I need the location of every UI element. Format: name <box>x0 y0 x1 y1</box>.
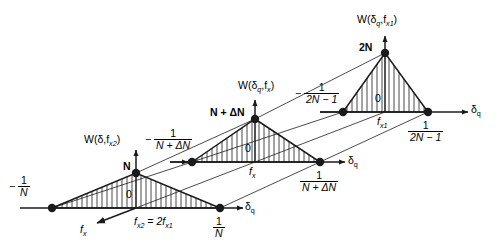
plot-right-zero-label: 0 <box>375 93 381 104</box>
plot-right-axis-label: δq <box>471 104 481 118</box>
plot-middle-intercept-negative: 1 N + ΔN <box>154 128 192 150</box>
plot-middle-zero-label: 0 <box>245 143 251 154</box>
plot-left-title: W(δ,fx2) <box>84 134 120 148</box>
plot-left-intercept-positive: 1 N <box>213 216 225 238</box>
plot-right-peak-label: 2N <box>359 42 372 53</box>
plot-middle-neg-sign: − <box>145 134 151 145</box>
plot-middle-axis-label: δq <box>348 155 358 169</box>
plot-right-intercept-positive: 1 2N − 1 <box>408 120 443 142</box>
frequency-relation-label: fx2 = 2fx1 <box>134 216 173 230</box>
plot-middle-fx-label: fx <box>249 166 255 180</box>
plot-middle-title: W(δq,fx) <box>238 80 274 94</box>
plot-right-geometry <box>320 36 468 116</box>
plot-middle-peak-label: N + ΔN <box>210 107 245 118</box>
plot-left-geometry <box>20 150 243 223</box>
plot-left-zero-label: 0 <box>126 189 132 200</box>
plot-left-fx-label: fx <box>80 224 86 238</box>
plot-right-neg-sign: − <box>295 88 301 99</box>
plot-left-intercept-negative: 1 N <box>18 175 30 197</box>
plot-right-intercept-negative: 1 2N − 1 <box>304 82 339 104</box>
vertex-markers <box>48 49 432 212</box>
plot-left-neg-sign: − <box>9 181 15 192</box>
plot-middle-geometry <box>170 100 345 166</box>
plot-left-axis-label: δq <box>245 201 255 215</box>
plot-right-fx-label: fx1 <box>377 116 387 130</box>
plot-right-title: W(δq,fx1) <box>357 14 397 28</box>
plot-middle-intercept-positive: 1 N + ΔN <box>300 170 338 192</box>
plot-left-peak-label: N <box>123 161 131 172</box>
